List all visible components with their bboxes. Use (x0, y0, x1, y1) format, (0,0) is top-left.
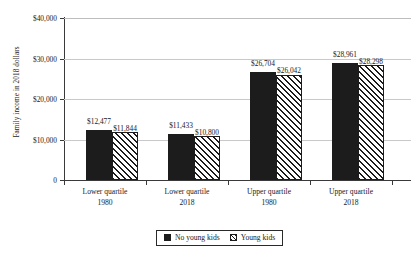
x-category-label-upper-quartile-1980: Upper quartile 1980 (247, 186, 291, 208)
y-tick-label-10000: $10,000 (33, 135, 57, 144)
category-line-2: 1980 (247, 197, 291, 208)
category-line-2: 2018 (329, 197, 373, 208)
category-line-2: 2018 (165, 197, 210, 208)
bar-chart: Family income in 2018 dollars $40,000 $3… (0, 0, 411, 255)
bar-value-no-young-kids-upper-quartile-1980: $26,704 (251, 59, 275, 68)
x-tick-2 (228, 180, 229, 185)
y-tick-30000 (60, 59, 64, 60)
x-axis-line (64, 180, 411, 181)
legend-label-no-young-kids: No young kids (175, 233, 220, 242)
y-tick-label-40000: $40,000 (33, 14, 57, 23)
y-axis-title: Family income in 2018 dollars (13, 7, 21, 177)
x-category-label-lower-quartile-2018: Lower quartile 2018 (165, 186, 210, 208)
y-tick-label-0: 0 (53, 176, 57, 185)
x-tick-4 (392, 180, 393, 185)
category-line-1: Upper quartile (247, 187, 291, 196)
x-tick-3 (310, 180, 311, 185)
chart-legend: No young kids Young kids (156, 230, 283, 246)
bar-value-young-kids-upper-quartile-1980: $26,042 (277, 66, 301, 75)
bar-young-kids-lower-quartile-2018 (194, 136, 220, 180)
bar-value-young-kids-lower-quartile-1980: $11,844 (113, 124, 137, 133)
bar-value-young-kids-lower-quartile-2018: $10,800 (195, 128, 219, 137)
legend-item-young-kids: Young kids (230, 233, 275, 242)
bar-young-kids-upper-quartile-1980 (276, 75, 302, 181)
bar-young-kids-lower-quartile-1980 (112, 132, 138, 180)
bar-value-no-young-kids-lower-quartile-1980: $12,477 (87, 117, 111, 126)
bar-value-no-young-kids-lower-quartile-2018: $11,433 (169, 121, 193, 130)
bar-no-young-kids-upper-quartile-1980 (250, 72, 276, 180)
category-line-2: 1980 (83, 197, 128, 208)
category-line-1: Upper quartile (329, 187, 373, 196)
category-line-1: Lower quartile (165, 187, 210, 196)
x-category-label-upper-quartile-2018: Upper quartile 2018 (329, 186, 373, 208)
x-category-label-lower-quartile-1980: Lower quartile 1980 (83, 186, 128, 208)
bar-value-no-young-kids-upper-quartile-2018: $28,961 (333, 50, 357, 59)
category-line-1: Lower quartile (83, 187, 128, 196)
bar-young-kids-upper-quartile-2018 (358, 65, 384, 180)
y-tick-20000 (60, 99, 64, 100)
bar-no-young-kids-upper-quartile-2018 (332, 63, 358, 180)
gridline-40000 (64, 18, 411, 19)
x-tick-0 (64, 180, 65, 185)
legend-swatch-hatched-icon (230, 234, 237, 241)
y-tick-10000 (60, 140, 64, 141)
x-tick-1 (146, 180, 147, 185)
legend-label-young-kids: Young kids (241, 233, 275, 242)
plot-area: $40,000 $30,000 $20,000 $10,000 0 $12,47… (64, 18, 394, 180)
legend-swatch-solid-icon (164, 234, 171, 241)
bar-no-young-kids-lower-quartile-1980 (86, 130, 112, 181)
y-tick-40000 (60, 18, 64, 19)
bar-value-young-kids-upper-quartile-2018: $28,298 (359, 57, 383, 66)
y-tick-label-20000: $20,000 (33, 95, 57, 104)
y-tick-label-30000: $30,000 (33, 54, 57, 63)
bar-no-young-kids-lower-quartile-2018 (168, 134, 194, 180)
legend-item-no-young-kids: No young kids (164, 233, 220, 242)
